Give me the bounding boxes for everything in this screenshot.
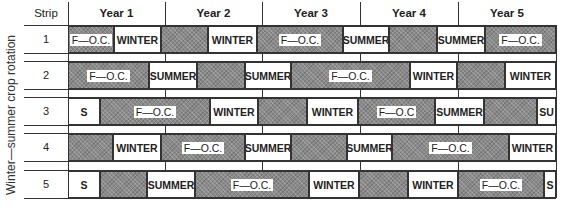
segment-label: F—O.C. xyxy=(329,70,372,82)
header-year-4: Year 4 xyxy=(360,0,458,25)
segment-label: SUMMER xyxy=(148,179,195,191)
row-bottom-rule xyxy=(24,161,556,162)
crop-segment: WINTER xyxy=(307,98,358,125)
segment-label: SUMMER xyxy=(436,106,483,118)
segment-label: WINTER xyxy=(213,106,254,118)
shaded-segment xyxy=(258,98,307,125)
strip-label: 1 xyxy=(24,25,68,53)
crop-segment: SUMMER xyxy=(149,62,197,89)
fallow-oats-segment: F—O.C. xyxy=(68,62,149,89)
segment-label: F—O.C. xyxy=(182,142,225,154)
segment-label: WINTER xyxy=(510,70,551,82)
shaded-segment xyxy=(389,26,437,53)
fallow-oats-segment: F—O.C. xyxy=(161,134,245,161)
shaded-segment xyxy=(484,98,537,125)
segment-label: F—O.C. xyxy=(231,179,274,191)
fallow-oats-segment: F—O.C. xyxy=(195,171,309,198)
crop-segment: WINTER xyxy=(505,62,556,89)
shaded-segment xyxy=(161,26,208,53)
strip-label: 4 xyxy=(24,133,68,161)
segment-label: F—O.C. xyxy=(480,179,523,191)
crop-segment: WINTER xyxy=(113,134,161,161)
segment-label: SUMMER xyxy=(245,70,291,82)
crop-segment: WINTER xyxy=(309,171,359,198)
crop-segment: SUMMER xyxy=(437,26,485,53)
crop-segment: SUMMER xyxy=(245,62,291,89)
segment-label: SU xyxy=(539,106,554,118)
segment-label: F—O.C. xyxy=(279,34,322,46)
side-axis-label-text: Winter—summer crop rotation xyxy=(4,35,18,195)
shaded-segment xyxy=(457,62,505,89)
shaded-segment xyxy=(68,134,113,161)
segment-label: WINTER xyxy=(117,34,158,46)
row-bottom-rule xyxy=(24,53,556,54)
segment-label: F—O.C xyxy=(377,106,417,118)
segment-label: WINTER xyxy=(313,179,354,191)
crop-segment: S xyxy=(544,171,556,198)
crop-segment: S xyxy=(68,171,100,198)
crop-segment: SUMMER xyxy=(245,134,291,161)
segment-label: F—O.C. xyxy=(499,34,542,46)
header-year-1: Year 1 xyxy=(68,0,165,25)
segment-label: S xyxy=(80,179,87,191)
row-bottom-rule xyxy=(24,198,556,199)
segment-label: SUMMER xyxy=(150,70,197,82)
fallow-oats-segment: F—O.C. xyxy=(392,134,509,161)
segment-label: S xyxy=(546,179,553,191)
side-axis-label: Winter—summer crop rotation xyxy=(3,35,19,195)
shaded-segment xyxy=(197,62,245,89)
segment-label: F—O.C. xyxy=(70,34,113,46)
crop-segment: WINTER xyxy=(208,26,257,53)
segment-label: F—O.C. xyxy=(87,70,130,82)
segment-label: WINTER xyxy=(312,106,353,118)
crop-segment: S xyxy=(68,98,100,125)
header-year-2: Year 2 xyxy=(165,0,262,25)
strip-label: 2 xyxy=(24,61,68,89)
fallow-oats-segment: F—O.C. xyxy=(68,26,114,53)
row-bottom-rule xyxy=(24,125,556,126)
right-border xyxy=(556,25,557,198)
fallow-oats-segment: F—O.C. xyxy=(291,62,410,89)
fallow-oats-segment: F—O.C xyxy=(358,98,435,125)
row-bottom-rule xyxy=(24,89,556,90)
segment-label: S xyxy=(80,106,87,118)
segment-label: WINTER xyxy=(512,142,553,154)
fallow-oats-segment: F—O.C. xyxy=(257,26,343,53)
shaded-segment xyxy=(359,171,408,198)
segment-label: WINTER xyxy=(413,70,454,82)
segment-label: WINTER xyxy=(212,34,253,46)
header-strip: Strip xyxy=(24,0,68,25)
segment-label: F—O.C. xyxy=(429,142,472,154)
crop-segment: SU xyxy=(537,98,556,125)
shaded-segment xyxy=(291,134,347,161)
crop-segment: WINTER xyxy=(410,62,457,89)
fallow-oats-segment: F—O.C. xyxy=(485,26,556,53)
fallow-oats-segment: F—O.C. xyxy=(100,98,210,125)
segment-label: F—O.C. xyxy=(134,106,177,118)
crop-segment: WINTER xyxy=(509,134,556,161)
segment-label: SUMMER xyxy=(343,34,389,46)
crop-segment: SUMMER xyxy=(147,171,195,198)
segment-label: SUMMER xyxy=(347,142,392,154)
segment-label: SUMMER xyxy=(245,142,291,154)
fallow-oats-segment: F—O.C. xyxy=(458,171,544,198)
crop-segment: SUMMER xyxy=(347,134,392,161)
segment-label: WINTER xyxy=(412,179,453,191)
strip-label: 5 xyxy=(24,170,68,198)
segment-label: WINTER xyxy=(116,142,157,154)
header-year-3: Year 3 xyxy=(262,0,360,25)
crop-segment: WINTER xyxy=(210,98,258,125)
segment-label: SUMMER xyxy=(438,34,485,46)
shaded-segment xyxy=(100,171,147,198)
crop-segment: WINTER xyxy=(114,26,161,53)
crop-segment: WINTER xyxy=(408,171,458,198)
crop-segment: SUMMER xyxy=(343,26,389,53)
header-year-5: Year 5 xyxy=(458,0,556,25)
strip-label: 3 xyxy=(24,97,68,125)
crop-segment: SUMMER xyxy=(435,98,484,125)
